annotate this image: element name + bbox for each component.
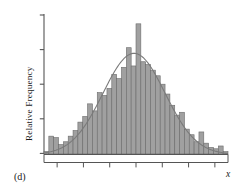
histogram-bar [92,111,97,155]
histogram-bar [160,84,165,154]
x-axis-ticks [57,163,215,168]
histogram-bar [112,74,117,154]
histogram-bar [54,138,59,155]
histogram-bar [141,62,146,155]
histogram-bar [136,24,141,155]
panel-label: (d) [14,171,26,183]
histogram-bar [126,48,131,155]
histogram-bar [131,66,136,154]
histogram-bar [73,131,78,155]
plot-area [40,14,228,167]
histogram-bar [170,105,175,154]
y-axis-ticks [40,15,44,153]
histogram-bar [151,70,156,154]
histogram-bar [121,67,126,154]
y-axis-label: Relative Frequency [24,66,34,141]
histogram-figure: Relative Frequency (d) x [0,0,245,189]
histogram-bar [88,104,93,155]
histogram-bar [117,79,122,155]
histogram-bar [175,115,180,154]
histogram-bar [194,142,199,155]
histogram-bar [78,122,83,154]
x-axis-label: x [225,169,231,179]
histogram-bar [63,142,68,155]
histogram-bar [102,95,107,154]
histogram-bar [146,65,151,155]
histogram-bars [44,24,228,155]
histogram-bar [107,88,112,154]
histogram-bar [180,112,185,154]
figure-panel-d: Relative Frequency (d) x [0,0,245,189]
histogram-bar [68,136,73,154]
histogram-bar [155,76,160,155]
histogram-bar [165,94,170,154]
